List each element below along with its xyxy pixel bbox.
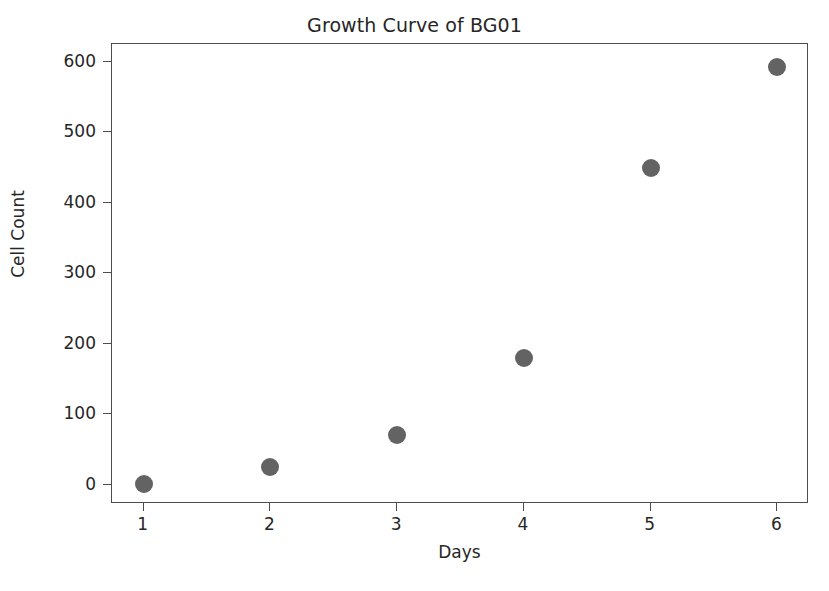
y-tick-mark xyxy=(103,413,111,414)
y-tick-label: 200 xyxy=(30,333,96,353)
x-tick-mark xyxy=(396,503,397,511)
y-tick-mark xyxy=(103,61,111,62)
y-tick-mark xyxy=(103,484,111,485)
x-tick-label: 5 xyxy=(630,514,670,534)
y-tick-mark xyxy=(103,131,111,132)
figure-canvas: Growth Curve of BG01 0100200300400500600… xyxy=(0,0,829,591)
data-point xyxy=(515,349,533,367)
x-axis-label: Days xyxy=(111,542,808,562)
x-tick-mark xyxy=(650,503,651,511)
data-point xyxy=(388,426,406,444)
x-tick-label: 4 xyxy=(503,514,543,534)
x-tick-mark xyxy=(143,503,144,511)
x-tick-mark xyxy=(269,503,270,511)
y-tick-label: 400 xyxy=(30,192,96,212)
y-tick-mark xyxy=(103,343,111,344)
y-tick-label: 100 xyxy=(30,403,96,423)
x-tick-label: 1 xyxy=(123,514,163,534)
x-tick-label: 2 xyxy=(249,514,289,534)
chart-title: Growth Curve of BG01 xyxy=(0,14,829,36)
data-point xyxy=(768,58,786,76)
plot-area xyxy=(111,43,808,503)
data-point xyxy=(135,475,153,493)
y-tick-mark xyxy=(103,272,111,273)
y-tick-mark xyxy=(103,202,111,203)
y-tick-label: 500 xyxy=(30,121,96,141)
x-tick-mark xyxy=(776,503,777,511)
data-point xyxy=(642,159,660,177)
data-point xyxy=(261,458,279,476)
y-axis-label: Cell Count xyxy=(8,154,28,314)
x-tick-label: 6 xyxy=(756,514,796,534)
x-tick-label: 3 xyxy=(376,514,416,534)
y-tick-label: 0 xyxy=(30,474,96,494)
x-tick-mark xyxy=(523,503,524,511)
y-tick-label: 600 xyxy=(30,51,96,71)
scatter-series-bg01 xyxy=(112,44,807,502)
y-tick-label: 300 xyxy=(30,262,96,282)
